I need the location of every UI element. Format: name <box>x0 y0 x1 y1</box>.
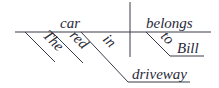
object-subject-word: driveway <box>132 66 187 82</box>
sentence-diagram: car belongs The red in driveway to Bill <box>0 0 219 88</box>
preposition-subject-word: in <box>100 31 120 51</box>
object-verb-word: Bill <box>177 40 199 56</box>
